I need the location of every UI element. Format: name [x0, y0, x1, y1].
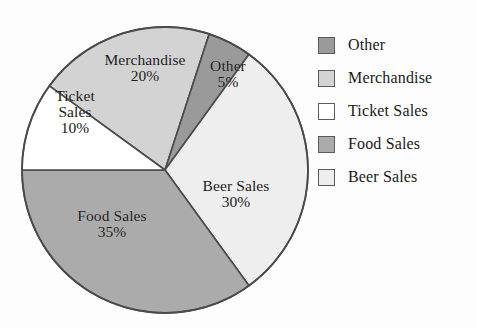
slice-label-ticket-sales-name-line1: Ticket — [38, 88, 112, 104]
legend-item-other[interactable]: Other — [318, 30, 470, 60]
slice-label-ticket-sales: Ticket Sales 10% — [38, 88, 112, 136]
legend-swatch-merchandise — [318, 70, 335, 87]
legend-label-ticket-sales: Ticket Sales — [348, 102, 428, 120]
legend-item-beer-sales[interactable]: Beer Sales — [318, 162, 470, 192]
pie-plot-area: Merchandise 20% Other 5% Ticket Sales 10… — [0, 0, 320, 328]
legend-label-other: Other — [348, 36, 385, 54]
chart-legend: Other Merchandise Ticket Sales Food Sale… — [318, 30, 470, 195]
slice-label-food-sales-value: 35% — [52, 224, 172, 240]
slice-label-other: Other 5% — [192, 58, 264, 90]
legend-swatch-other — [318, 37, 335, 54]
slice-label-food-sales-name: Food Sales — [52, 208, 172, 224]
legend-item-merchandise[interactable]: Merchandise — [318, 63, 470, 93]
slice-label-beer-sales-value: 30% — [180, 194, 292, 210]
legend-item-food-sales[interactable]: Food Sales — [318, 129, 470, 159]
pie-svg — [0, 0, 320, 328]
legend-label-beer-sales: Beer Sales — [348, 168, 417, 186]
legend-swatch-ticket-sales — [318, 103, 335, 120]
slice-label-other-value: 5% — [192, 74, 264, 90]
legend-swatch-food-sales — [318, 136, 335, 153]
slice-label-ticket-sales-name-line2: Sales — [38, 104, 112, 120]
slice-label-beer-sales: Beer Sales 30% — [180, 178, 292, 210]
slice-label-ticket-sales-value: 10% — [38, 120, 112, 136]
pie-chart-figure: Merchandise 20% Other 5% Ticket Sales 10… — [0, 0, 477, 328]
legend-swatch-beer-sales — [318, 169, 335, 186]
legend-label-food-sales: Food Sales — [348, 135, 420, 153]
legend-item-ticket-sales[interactable]: Ticket Sales — [318, 96, 470, 126]
slice-label-food-sales: Food Sales 35% — [52, 208, 172, 240]
legend-label-merchandise: Merchandise — [348, 69, 432, 87]
slice-label-beer-sales-name: Beer Sales — [180, 178, 292, 194]
slice-label-other-name: Other — [192, 58, 264, 74]
